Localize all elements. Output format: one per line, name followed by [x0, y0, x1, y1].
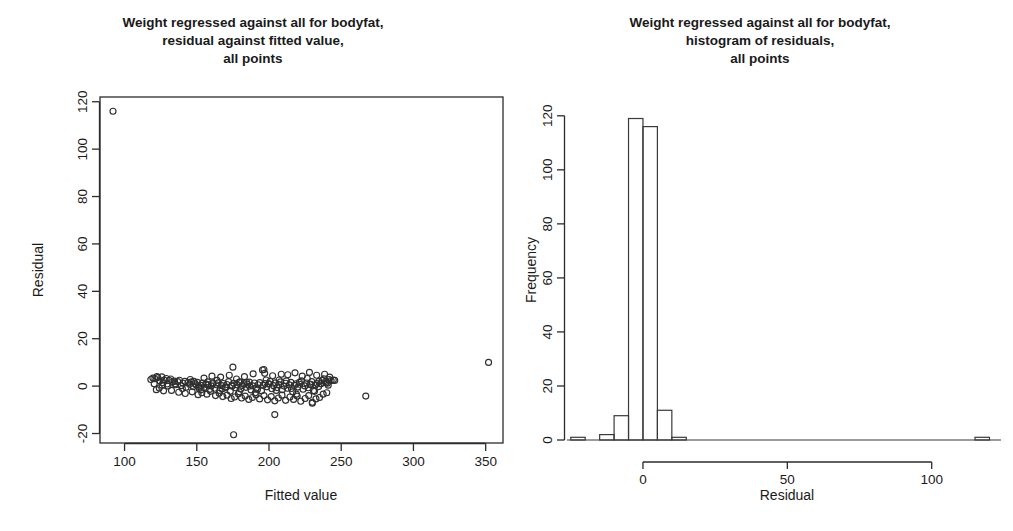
histogram-bar [629, 119, 643, 440]
data-point [218, 374, 224, 380]
x-axis-tick-label: 100 [920, 472, 943, 487]
data-point [250, 371, 256, 377]
y-axis-tick-label: 20 [540, 378, 555, 393]
panel-histogram-of-residuals: Weight regressed against all for bodyfat… [507, 0, 1013, 531]
data-point [176, 389, 182, 395]
panel-residual-vs-fitted: Weight regressed against all for bodyfat… [0, 0, 506, 531]
data-point [239, 395, 245, 401]
y-axis-label-right: Frequency [523, 237, 539, 303]
y-axis-tick-label: 0 [540, 436, 555, 444]
x-axis-tick-label: 0 [639, 472, 647, 487]
data-point [272, 412, 278, 418]
scatter-points-group [110, 108, 492, 437]
y-axis-tick-label: 20 [75, 331, 90, 346]
data-point [226, 372, 232, 378]
histogram-bar [975, 437, 989, 440]
x-axis-tick-label: 250 [330, 454, 353, 469]
histogram-bar [571, 437, 585, 440]
data-point [292, 370, 298, 376]
y-axis-tick-label: 40 [540, 324, 555, 339]
x-axis-label-left: Fitted value [265, 487, 338, 503]
data-point [317, 395, 323, 401]
data-point [306, 369, 312, 375]
y-axis-tick-label: 0 [75, 382, 90, 390]
data-point [320, 391, 326, 397]
data-point [314, 372, 320, 378]
y-axis-tick-label: 100 [75, 138, 90, 161]
data-point [246, 396, 252, 402]
data-point [486, 359, 492, 365]
data-point [209, 373, 215, 379]
y-axis-tick-label: 40 [75, 284, 90, 299]
y-axis-tick-label: 120 [540, 105, 555, 128]
x-axis-tick-label: 350 [474, 454, 497, 469]
x-axis-tick-label: 50 [780, 472, 795, 487]
figure-canvas: Weight regressed against all for bodyfat… [0, 0, 1013, 531]
y-axis-tick-label: 120 [75, 90, 90, 113]
data-point [230, 364, 236, 370]
x-axis-left: 100150200250300350 [113, 444, 497, 470]
histogram-bar [657, 410, 671, 440]
y-axis-left: -20020406080100120 [75, 90, 100, 443]
data-point [363, 393, 369, 399]
data-point [242, 393, 248, 399]
histogram-svg: 020406080100120 050100 Frequency Residua… [507, 0, 1013, 531]
x-axis-tick-label: 300 [402, 454, 425, 469]
data-point [278, 371, 284, 377]
data-point [285, 372, 291, 378]
histogram-bar [614, 416, 628, 440]
y-axis-tick-label: 100 [540, 159, 555, 182]
data-point [270, 373, 276, 379]
scatter-plot-svg: -20020406080100120 100150200250300350 Re… [0, 0, 506, 531]
histogram-bar [672, 437, 686, 440]
data-point [110, 108, 116, 114]
data-point [265, 397, 271, 403]
x-axis-label-right: Residual [760, 487, 814, 503]
histogram-bars-group [567, 119, 1001, 440]
y-axis-tick-label: 60 [540, 270, 555, 285]
y-axis-right: 020406080100120 [540, 105, 565, 444]
y-axis-tick-label: -20 [75, 424, 90, 444]
data-point [324, 390, 330, 396]
x-axis-right: 050100 [639, 462, 943, 487]
y-axis-tick-label: 80 [540, 216, 555, 231]
data-point [298, 398, 304, 404]
x-axis-tick-label: 100 [113, 454, 136, 469]
histogram-bar [643, 127, 657, 440]
data-point [241, 374, 247, 380]
x-axis-tick-label: 150 [186, 454, 209, 469]
data-point [231, 432, 237, 438]
y-axis-label-left: Residual [30, 243, 46, 297]
x-axis-tick-label: 200 [258, 454, 281, 469]
y-axis-tick-label: 60 [75, 236, 90, 251]
y-axis-tick-label: 80 [75, 189, 90, 204]
histogram-bar [600, 435, 614, 440]
